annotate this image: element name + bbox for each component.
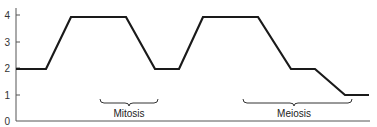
dna-content-line (16, 17, 369, 95)
y-tick-label-2: 2 (4, 63, 10, 74)
y-ticks (16, 15, 20, 95)
meiosis-brace (243, 99, 352, 106)
dna-content-chart: 4 3 2 1 0 Mitosis Meiosis (0, 0, 377, 126)
mitosis-brace (100, 99, 158, 106)
y-tick-label-4: 4 (4, 10, 10, 21)
y-tick-label-1: 1 (4, 90, 10, 101)
mitosis-label: Mitosis (113, 108, 144, 119)
y-tick-label-3: 3 (4, 37, 10, 48)
y-tick-label-0: 0 (4, 116, 10, 127)
meiosis-label: Meiosis (277, 108, 311, 119)
